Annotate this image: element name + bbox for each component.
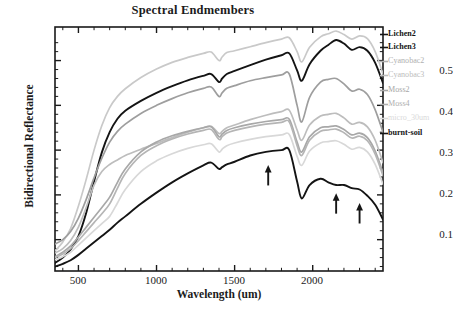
- legend-item-moss2: Moss2: [388, 86, 410, 94]
- series-line-burnt-soil: [55, 148, 383, 267]
- data-series-group: [55, 31, 383, 266]
- series-line-cyanobac3: [55, 109, 383, 253]
- annotation-arrows: [265, 165, 363, 224]
- legend-leader-ticks: [380, 35, 388, 134]
- annotation-arrow-1: [265, 165, 272, 186]
- legend-item-cyanobac3: Cyanobac3: [388, 71, 424, 79]
- legend-item-lichen2: Lichen2: [388, 30, 416, 38]
- legend-item-burnt-soil: burnt-soil: [388, 129, 422, 137]
- annotation-arrow-2: [333, 193, 340, 214]
- annotation-arrow-3: [356, 203, 363, 224]
- spectral-endmembers-figure: Spectral Endmembers Bidirectional Reflec…: [0, 0, 453, 318]
- legend-item-lichen3: Lichen3: [388, 43, 416, 51]
- legend-item-moss4: Moss4: [388, 100, 410, 108]
- legend-item-micro-30um: micro_30um: [388, 114, 429, 122]
- legend-item-cyanobac2: Cyanobac2: [388, 57, 424, 65]
- plot-canvas: [0, 0, 453, 318]
- series-line-cyanobac2: [55, 72, 383, 244]
